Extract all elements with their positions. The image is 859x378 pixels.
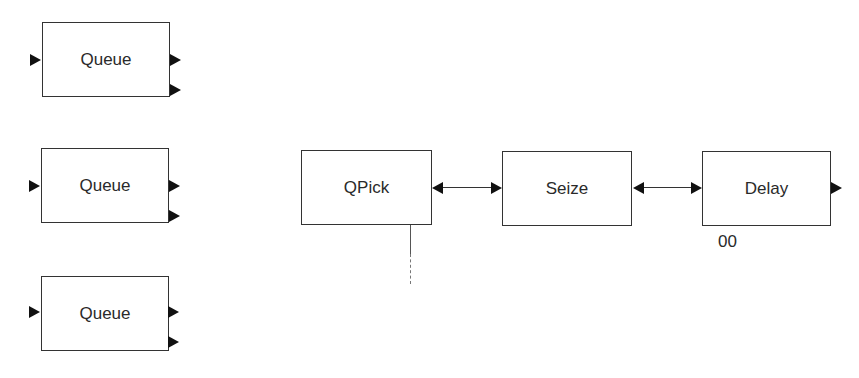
delay-annotation: 00 (718, 232, 737, 252)
delay-block[interactable]: Delay (702, 151, 831, 226)
qpick-seize-right-arrowhead-icon (491, 182, 502, 194)
qpick-select-dashed-line (410, 254, 411, 284)
seize-block-label: Seize (546, 179, 589, 199)
queue-3-input-port-icon[interactable] (29, 306, 40, 318)
queue-2-secondary-output-port-icon[interactable] (169, 210, 180, 222)
delay-output-port-icon[interactable] (831, 182, 842, 194)
queue-block-3-label: Queue (79, 304, 130, 324)
queue-1-output-port-icon[interactable] (170, 54, 181, 66)
qpick-select-line (410, 225, 411, 254)
queue-2-input-port-icon[interactable] (29, 180, 40, 192)
queue-1-input-port-icon[interactable] (30, 54, 41, 66)
qpick-seize-connector[interactable] (440, 187, 492, 188)
seize-delay-right-arrowhead-icon (691, 182, 702, 194)
queue-3-secondary-output-port-icon[interactable] (168, 336, 179, 348)
seize-delay-left-arrowhead-icon (633, 182, 644, 194)
queue-block-3[interactable]: Queue (41, 276, 169, 351)
queue-block-1[interactable]: Queue (42, 22, 170, 97)
qpick-block-label: QPick (344, 178, 389, 198)
queue-3-output-port-icon[interactable] (168, 306, 179, 318)
queue-1-secondary-output-port-icon[interactable] (170, 84, 181, 96)
queue-block-2-label: Queue (79, 176, 130, 196)
queue-block-1-label: Queue (80, 50, 131, 70)
seize-delay-connector[interactable] (641, 187, 693, 188)
delay-block-label: Delay (745, 179, 788, 199)
queue-2-output-port-icon[interactable] (169, 180, 180, 192)
qpick-block[interactable]: QPick (301, 150, 432, 225)
queue-block-2[interactable]: Queue (41, 148, 169, 223)
qpick-seize-left-arrowhead-icon (432, 182, 443, 194)
seize-block[interactable]: Seize (502, 151, 632, 226)
